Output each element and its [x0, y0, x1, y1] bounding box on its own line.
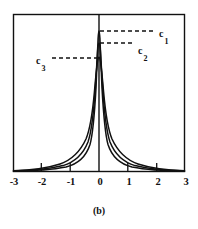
curve-label-c2-subscript: 2: [143, 54, 147, 63]
x-tick-label-2: 2: [150, 176, 166, 188]
x-tick-label--3: -3: [6, 176, 22, 188]
curve-label-c1: c1: [159, 24, 167, 43]
x-tick-label--1: -1: [63, 176, 79, 188]
curve-label-c1-base: c: [159, 28, 163, 39]
x-tick-label-0: 0: [92, 176, 108, 188]
curve-label-c3-subscript: 3: [41, 64, 45, 73]
x-tick-label-1: 1: [121, 176, 137, 188]
curve-label-c2-base: c: [138, 45, 142, 56]
x-tick-label--2: -2: [34, 176, 50, 188]
figure-caption: (b): [0, 205, 198, 217]
curve-label-c3: c3: [36, 51, 44, 70]
plot-canvas: [0, 0, 198, 229]
curve-label-c3-base: c: [36, 55, 40, 66]
curve-label-c2: c2: [138, 41, 146, 60]
figure-container: c1 c2 c3 -3 -2 -1 0 1 2 3 (b): [0, 0, 198, 229]
x-tick-label-3: 3: [178, 176, 194, 188]
curve-label-c1-subscript: 1: [164, 37, 168, 46]
